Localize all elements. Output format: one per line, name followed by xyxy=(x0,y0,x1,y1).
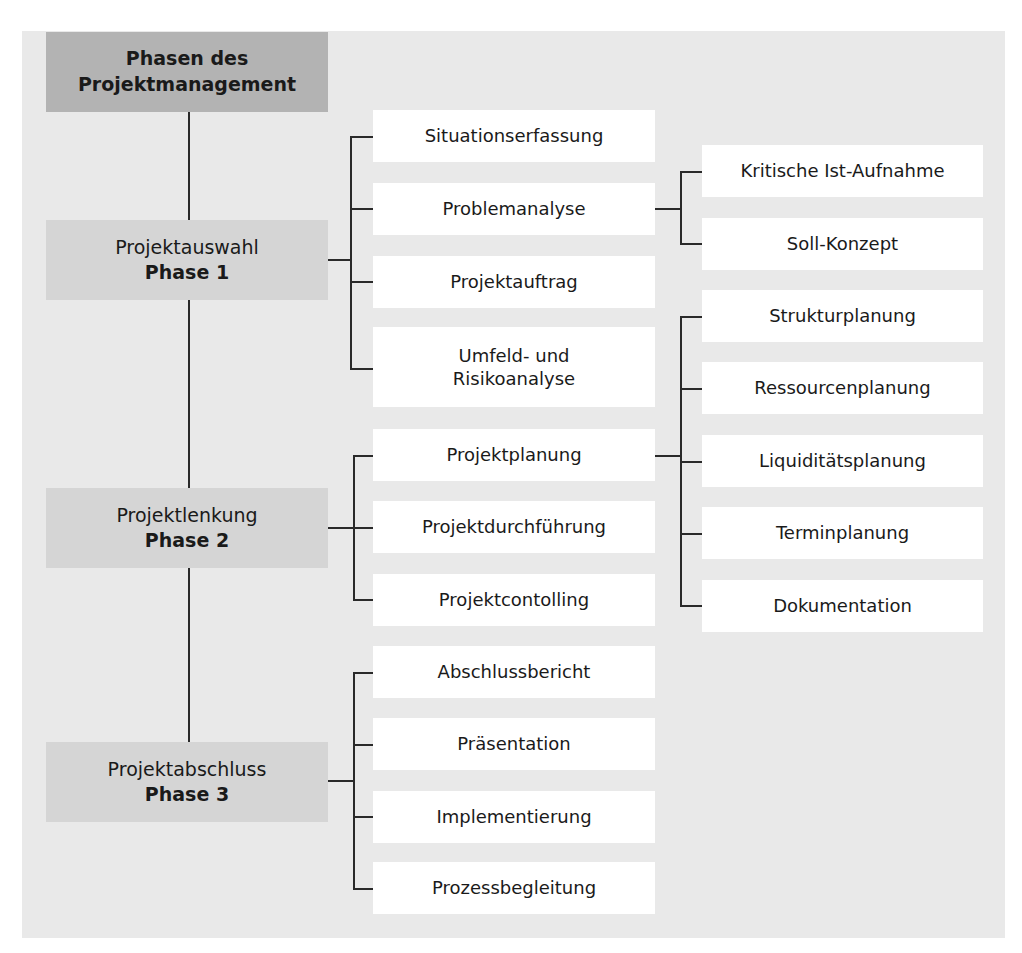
phase-1-tick-4 xyxy=(350,368,373,370)
step-praesentation: Präsentation xyxy=(373,718,655,770)
phase-1-tick-3 xyxy=(350,281,373,283)
substep-label: Dokumentation xyxy=(773,594,912,617)
title-line-2: Projektmanagement xyxy=(78,72,296,98)
phase-2-connector xyxy=(328,527,373,529)
step-projektplanung: Projektplanung xyxy=(373,429,655,481)
step-label: Situationserfassung xyxy=(425,124,604,147)
projektplanung-tick-3 xyxy=(680,461,702,463)
step-situationserfassung: Situationserfassung xyxy=(373,110,655,162)
step-umfeld-risikoanalyse: Umfeld- und Risikoanalyse xyxy=(373,327,655,407)
phase-3-tick-1 xyxy=(353,672,373,674)
substep-label: Kritische Ist-Aufnahme xyxy=(740,159,944,182)
problemanalyse-tick-1 xyxy=(680,171,702,173)
step-label: Prozessbegleitung xyxy=(432,876,596,899)
phase-2-box: Projektlenkung Phase 2 xyxy=(46,488,328,568)
phase-3-box: Projektabschluss Phase 3 xyxy=(46,742,328,822)
phase-2-tick-3 xyxy=(353,599,373,601)
phase-3-tick-3 xyxy=(353,816,373,818)
step-label: Problemanalyse xyxy=(442,197,585,220)
substep-ressourcenplanung: Ressourcenplanung xyxy=(702,362,983,414)
step-label: Abschlussbericht xyxy=(438,660,591,683)
substep-strukturplanung: Strukturplanung xyxy=(702,290,983,342)
phase-1-name: Projektauswahl xyxy=(115,235,259,260)
step-label-line-1: Umfeld- und xyxy=(458,344,569,367)
projektplanung-connector xyxy=(655,455,680,457)
trunk-line-2 xyxy=(188,300,190,488)
phase-3-name: Projektabschluss xyxy=(108,757,267,782)
step-label: Projektplanung xyxy=(446,443,581,466)
title-line-1: Phasen des xyxy=(126,46,248,72)
substep-label: Strukturplanung xyxy=(769,304,916,327)
step-prozessbegleitung: Prozessbegleitung xyxy=(373,862,655,914)
phase-3-tick-2 xyxy=(353,744,373,746)
phase-1-bracket xyxy=(350,136,352,369)
step-label: Implementierung xyxy=(436,805,591,828)
phase-1-tick-1 xyxy=(350,136,373,138)
step-projektdurchfuehrung: Projektdurchführung xyxy=(373,501,655,553)
problemanalyse-tick-2 xyxy=(680,243,702,245)
substep-label: Ressourcenplanung xyxy=(754,376,930,399)
step-label-line-2: Risikoanalyse xyxy=(453,367,575,390)
step-projektauftrag: Projektauftrag xyxy=(373,256,655,308)
projektplanung-tick-1 xyxy=(680,316,702,318)
substep-label: Liquiditätsplanung xyxy=(759,449,926,472)
step-label: Projektauftrag xyxy=(450,270,578,293)
projektplanung-tick-5 xyxy=(680,605,702,607)
phase-3-connector xyxy=(328,780,353,782)
problemanalyse-connector xyxy=(655,208,680,210)
projektplanung-tick-2 xyxy=(680,388,702,390)
phase-1-label: Phase 1 xyxy=(145,260,229,285)
step-problemanalyse: Problemanalyse xyxy=(373,183,655,235)
step-label: Präsentation xyxy=(457,732,570,755)
phase-3-label: Phase 3 xyxy=(145,782,229,807)
phase-2-name: Projektlenkung xyxy=(116,503,257,528)
substep-liquiditaetsplanung: Liquiditätsplanung xyxy=(702,435,983,487)
substep-label: Soll-Konzept xyxy=(787,232,898,255)
phase-1-tick-2 xyxy=(350,208,373,210)
step-implementierung: Implementierung xyxy=(373,791,655,843)
step-label: Projektdurchführung xyxy=(422,515,606,538)
phase-1-connector xyxy=(328,259,350,261)
trunk-line-3 xyxy=(188,568,190,742)
substep-kritische-ist-aufnahme: Kritische Ist-Aufnahme xyxy=(702,145,983,197)
substep-soll-konzept: Soll-Konzept xyxy=(702,218,983,270)
phase-2-label: Phase 2 xyxy=(145,528,229,553)
phase-3-tick-4 xyxy=(353,888,373,890)
trunk-line-1 xyxy=(188,112,190,220)
step-projektcontolling: Projektcontolling xyxy=(373,574,655,626)
substep-terminplanung: Terminplanung xyxy=(702,507,983,559)
step-label: Projektcontolling xyxy=(439,588,589,611)
phase-1-box: Projektauswahl Phase 1 xyxy=(46,220,328,300)
step-abschlussbericht: Abschlussbericht xyxy=(373,646,655,698)
phase-2-tick-1 xyxy=(353,455,373,457)
diagram-title: Phasen des Projektmanagement xyxy=(46,32,328,112)
substep-dokumentation: Dokumentation xyxy=(702,580,983,632)
phase-3-bracket xyxy=(353,672,355,889)
problemanalyse-bracket xyxy=(680,171,682,244)
projektplanung-tick-4 xyxy=(680,533,702,535)
phase-2-bracket xyxy=(353,455,355,600)
substep-label: Terminplanung xyxy=(776,521,909,544)
